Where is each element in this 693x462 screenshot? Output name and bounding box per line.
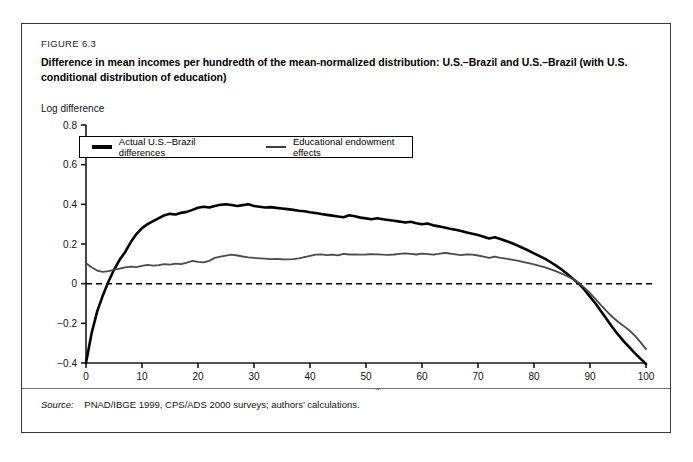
legend-swatch-actual-icon [92, 145, 112, 148]
legend-item-actual: Actual U.S.–Brazil differences [92, 136, 232, 158]
legend-label-actual: Actual U.S.–Brazil differences [119, 136, 232, 158]
y-tick-label: 0.2 [63, 239, 77, 250]
source-note: Source: PNAD/IBGE 1999, CPS/ADS 2000 sur… [41, 399, 360, 410]
y-tick-label: −0.2 [57, 318, 77, 329]
y-tick-label: 0.6 [63, 159, 77, 170]
y-tick-label: 0 [71, 278, 77, 289]
x-tick-label: 20 [192, 371, 204, 382]
line-chart-svg: −0.4−0.200.20.40.60.80102030405060708090… [22, 24, 672, 390]
legend-swatch-education-icon [266, 146, 286, 148]
figure-panel: FIGURE 6.3 Difference in mean incomes pe… [21, 23, 671, 433]
y-tick-label: −0.4 [57, 358, 77, 369]
x-tick-label: 40 [304, 371, 316, 382]
legend-item-education: Educational endowment effects [266, 136, 412, 158]
x-tick-label: 10 [136, 371, 148, 382]
chart-legend: Actual U.S.–Brazil differences Education… [79, 136, 413, 158]
x-tick-label: 50 [360, 371, 372, 382]
source-divider [22, 388, 670, 389]
x-tick-label: 60 [416, 371, 428, 382]
source-text: PNAD/IBGE 1999, CPS/ADS 2000 surveys; au… [84, 399, 359, 410]
legend-label-education: Educational endowment effects [293, 136, 412, 158]
y-axis-title: Log difference [41, 103, 104, 114]
x-tick-label: 30 [248, 371, 260, 382]
x-tick-label: 0 [83, 371, 89, 382]
x-tick-label: 80 [528, 371, 540, 382]
x-tick-label: 90 [584, 371, 596, 382]
source-label: Source: [41, 399, 74, 410]
x-tick-label: 100 [638, 371, 655, 382]
y-tick-label: 0.4 [63, 199, 77, 210]
x-tick-label: 70 [472, 371, 484, 382]
series-line-education [86, 253, 646, 349]
y-tick-label: 0.8 [63, 120, 77, 131]
chart-plot-region: Log difference Actual U.S.–Brazil differ… [22, 24, 672, 390]
